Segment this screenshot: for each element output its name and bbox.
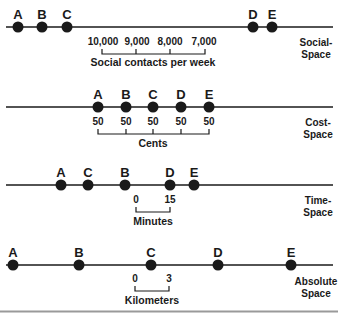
cost-point-e: E	[204, 87, 215, 113]
side-label-line2: Space	[303, 207, 333, 218]
time-space-panel: A C B D E 0 15 Minutes Time- Space	[6, 165, 333, 227]
scale-tick-label: 0	[132, 273, 138, 284]
time-point-d: D	[165, 165, 176, 191]
point-label: D	[176, 87, 185, 102]
point-dot	[83, 180, 94, 191]
point-label: B	[74, 245, 83, 260]
scale-tick-label: 7,000	[191, 36, 216, 47]
scale-tick-label: 15	[164, 194, 176, 205]
time-point-a: A	[56, 165, 67, 191]
social-point-b: B	[37, 7, 48, 33]
point-label: E	[268, 7, 277, 22]
side-label-line1: Cost-	[305, 117, 331, 128]
absolute-point-b: B	[74, 245, 85, 271]
point-dot	[13, 22, 24, 33]
scale-caption: Kilometers	[125, 294, 179, 306]
social-point-c: C	[62, 7, 73, 33]
point-label: A	[56, 165, 66, 180]
scale-bracket	[98, 129, 209, 134]
point-dot	[176, 102, 187, 113]
scale-tick-label: 50	[92, 116, 104, 127]
point-dot	[286, 260, 297, 271]
side-label-line2: Space	[301, 288, 331, 299]
point-label: C	[148, 87, 158, 102]
point-dot	[121, 102, 132, 113]
absolute-point-c: C	[146, 245, 157, 271]
point-label: C	[83, 165, 93, 180]
point-label: D	[213, 245, 222, 260]
side-label-line1: Social-	[300, 37, 333, 48]
point-label: B	[37, 7, 46, 22]
cost-point-d: D	[176, 87, 187, 113]
point-label: B	[120, 165, 129, 180]
scale-caption: Cents	[138, 137, 167, 149]
point-dot	[204, 102, 215, 113]
scale-tick-label: 50	[147, 116, 159, 127]
point-dot	[213, 260, 224, 271]
point-dot	[267, 22, 278, 33]
time-point-e: E	[189, 165, 200, 191]
point-dot	[56, 180, 67, 191]
side-label-line2: Space	[303, 129, 333, 140]
time-scale: 0 15 Minutes	[133, 194, 176, 227]
scale-tick-label: 50	[175, 116, 187, 127]
cost-point-a: A	[93, 87, 104, 113]
scale-caption: Minutes	[133, 215, 173, 227]
point-dot	[62, 22, 73, 33]
scale-tick-label: 50	[120, 116, 132, 127]
side-label-line2: Space	[301, 49, 331, 60]
point-label: C	[62, 7, 72, 22]
scale-caption: Social contacts per week	[91, 56, 216, 68]
absolute-point-a: A	[8, 245, 19, 271]
point-dot	[148, 102, 159, 113]
social-point-a: A	[13, 7, 24, 33]
point-dot	[146, 260, 157, 271]
point-label: E	[205, 87, 214, 102]
social-point-d: D	[248, 7, 259, 33]
point-label: A	[8, 245, 18, 260]
absolute-point-e: E	[286, 245, 297, 271]
scale-bracket	[136, 207, 170, 212]
social-scale: 10,000 9,000 8,000 7,000 Social contacts…	[88, 36, 217, 68]
point-dot	[8, 260, 19, 271]
cost-point-b: B	[121, 87, 132, 113]
scale-tick-label: 8,000	[157, 36, 182, 47]
point-label: A	[13, 7, 23, 22]
point-dot	[189, 180, 200, 191]
space-comparison-diagram: A B C D E 10,000 9,000 8,000 7,000 Socia…	[0, 0, 338, 313]
point-dot	[93, 102, 104, 113]
social-space-panel: A B C D E 10,000 9,000 8,000 7,000 Socia…	[6, 7, 333, 68]
point-label: C	[146, 245, 156, 260]
absolute-space-panel: A B C D E 0 3 Kilometers Absolute Space	[6, 245, 338, 306]
point-label: D	[248, 7, 257, 22]
cost-point-c: C	[148, 87, 159, 113]
point-dot	[165, 180, 176, 191]
point-dot	[120, 180, 131, 191]
time-point-b: B	[120, 165, 131, 191]
point-dot	[37, 22, 48, 33]
cost-scale: 50 50 50 50 50 Cents	[92, 116, 215, 149]
point-dot	[74, 260, 85, 271]
scale-tick-label: 0	[133, 194, 139, 205]
point-label: D	[165, 165, 174, 180]
point-dot	[248, 22, 259, 33]
point-label: A	[93, 87, 103, 102]
scale-bracket	[135, 286, 169, 291]
scale-tick-label: 10,000	[88, 36, 119, 47]
scale-bracket	[102, 49, 205, 54]
side-label-line1: Absolute	[295, 276, 338, 287]
scale-tick-label: 50	[203, 116, 215, 127]
side-label-line1: Time-	[305, 195, 332, 206]
time-point-c: C	[83, 165, 94, 191]
cost-space-panel: A B C D E 50 50 50 50 50 Cents Cost- Spa…	[6, 87, 333, 149]
absolute-scale: 0 3 Kilometers	[125, 273, 179, 306]
scale-tick-label: 9,000	[124, 36, 149, 47]
social-point-e: E	[267, 7, 278, 33]
point-label: E	[190, 165, 199, 180]
scale-tick-label: 3	[166, 273, 172, 284]
point-label: E	[287, 245, 296, 260]
point-label: B	[121, 87, 130, 102]
absolute-point-d: D	[213, 245, 224, 271]
